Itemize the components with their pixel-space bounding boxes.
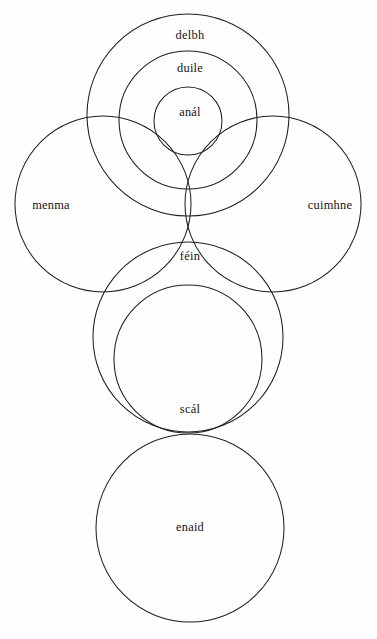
label-enaid: enaid: [176, 520, 205, 534]
label-fein: féin: [180, 249, 200, 263]
label-cuimhne: cuimhne: [308, 198, 353, 212]
venn-diagram: delbh duile anál menma cuimhne féin scál…: [0, 0, 377, 639]
label-scal: scál: [180, 402, 201, 416]
label-menma: menma: [32, 198, 70, 212]
label-anal: anál: [179, 105, 201, 119]
label-delbh: delbh: [176, 28, 205, 42]
circle-anal: [154, 87, 222, 155]
diagram-canvas: delbh duile anál menma cuimhne féin scál…: [0, 0, 377, 639]
label-duile: duile: [177, 61, 203, 75]
